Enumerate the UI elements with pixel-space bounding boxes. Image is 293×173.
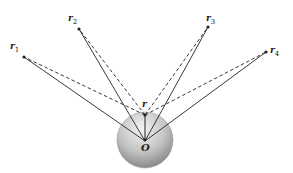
solid-line-r1 [24, 57, 145, 141]
label-r2: r2 [68, 13, 77, 26]
solid-line-r4 [145, 52, 266, 141]
solid-line-r3 [145, 27, 208, 141]
point-r2 [77, 27, 80, 30]
vector-diagram: r1r2r3r4rO [0, 0, 293, 173]
label-origin: O [141, 142, 150, 153]
point-r4 [264, 50, 267, 53]
solid-lines [24, 27, 266, 141]
point-r [143, 113, 146, 116]
label-r1: r1 [10, 41, 19, 54]
label-r: r [142, 99, 148, 109]
dashed-line-r4 [145, 52, 266, 115]
dashed-line-r1 [24, 57, 145, 115]
point-r3 [206, 25, 209, 28]
point-r1 [22, 55, 25, 58]
point-origin [144, 139, 147, 142]
solid-line-r2 [79, 29, 145, 141]
label-r4: r4 [270, 45, 280, 58]
label-r3: r3 [206, 13, 215, 26]
